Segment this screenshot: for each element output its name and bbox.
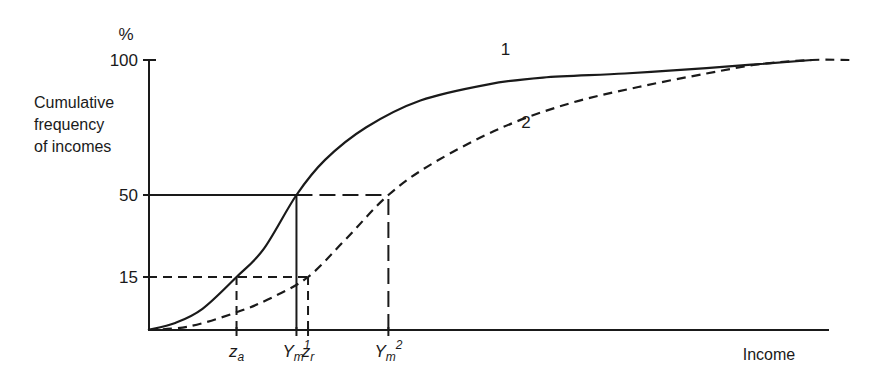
curve-label-2: 2: [521, 113, 530, 132]
y-tick-label-100: 100: [110, 51, 138, 70]
curve-label-1: 1: [501, 40, 510, 59]
y-axis-label: Cumulativefrequencyof incomes: [34, 94, 114, 155]
x-marker-label-za: za: [228, 342, 245, 364]
y-tick-label-50: 50: [119, 186, 138, 205]
cumulative-income-chart: 1005015%Cumulativefrequencyof incomesInc…: [0, 0, 880, 374]
y-tick-label-15: 15: [119, 268, 138, 287]
x-marker-label-zr: zr: [301, 342, 316, 364]
x-axis-label: Income: [743, 346, 796, 363]
x-marker-label-ym2: Ym2: [374, 338, 402, 364]
y-unit-label: %: [118, 25, 133, 44]
